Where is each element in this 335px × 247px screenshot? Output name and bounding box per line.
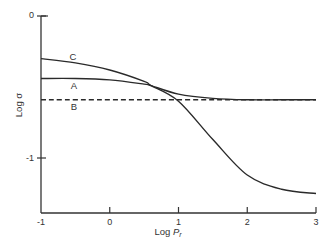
x-axis-label: Log Pr xyxy=(154,226,182,238)
y-tick-label: 0 xyxy=(29,10,34,20)
curve-labels: CAB xyxy=(70,51,78,112)
x-axis-label-text: Log xyxy=(154,226,173,237)
x-tick-label: -1 xyxy=(37,217,45,227)
y-axis-label: Log σ xyxy=(13,93,24,117)
curve-label-c: C xyxy=(70,51,77,62)
curve-a xyxy=(41,78,316,100)
curve-label-a: A xyxy=(71,80,78,91)
axes xyxy=(41,16,316,213)
x-tick-label: 0 xyxy=(107,217,112,227)
x-axis-label-subscript: r xyxy=(179,231,182,238)
x-tick-label: 3 xyxy=(313,217,318,227)
chart: -101230-1 CAB Log Pr Log σ xyxy=(0,0,335,247)
y-tick-label: -1 xyxy=(26,153,34,163)
ticks: -101230-1 xyxy=(26,10,319,227)
curves xyxy=(41,59,316,194)
x-tick-label: 2 xyxy=(245,217,250,227)
curve-label-b: B xyxy=(71,101,77,112)
